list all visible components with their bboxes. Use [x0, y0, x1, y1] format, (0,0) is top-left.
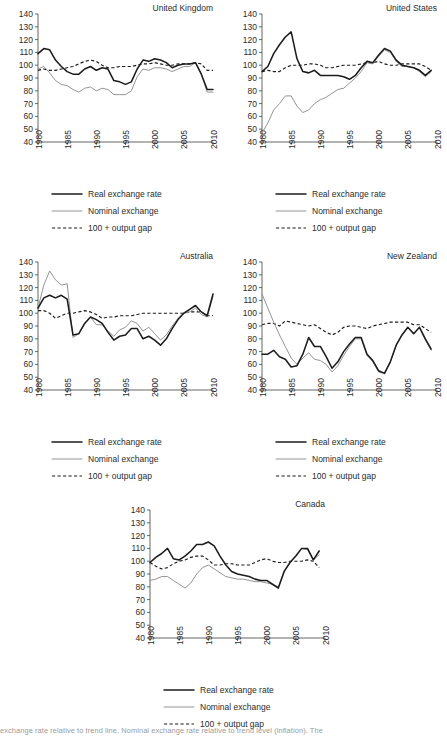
y-tick-label: 80 — [24, 334, 34, 344]
legend-label-3: 100 + output gap — [88, 223, 152, 233]
x-tick-label: 2005 — [179, 130, 189, 149]
y-tick-label: 90 — [136, 569, 146, 579]
legend-label-1: Real exchange rate — [200, 685, 274, 695]
y-tick-label: 140 — [19, 257, 33, 267]
y-tick-label: 90 — [248, 73, 258, 83]
x-tick-label: 1980 — [34, 130, 44, 149]
legend-label-1: Real exchange rate — [312, 189, 386, 199]
x-tick-label: 2010 — [209, 378, 219, 397]
y-tick-label: 40 — [24, 137, 34, 147]
x-tick-label: 2010 — [433, 130, 443, 149]
y-tick-label: 110 — [19, 47, 33, 57]
chart-svg: Australia4050607080901001101201301401980… — [0, 248, 223, 496]
x-tick-label: 1995 — [121, 130, 131, 149]
y-tick-label: 50 — [24, 124, 34, 134]
legend-label-1: Real exchange rate — [312, 437, 386, 447]
y-tick-label: 50 — [248, 124, 258, 134]
y-tick-label: 70 — [24, 347, 34, 357]
legend-label-2: Nominal exchange — [88, 206, 159, 216]
y-tick-label: 110 — [131, 543, 145, 553]
x-tick-label: 2005 — [403, 130, 413, 149]
x-tick-label: 2000 — [374, 378, 384, 397]
axis-lines — [262, 14, 437, 142]
y-tick-label: 110 — [19, 295, 33, 305]
y-tick-label: 40 — [248, 385, 258, 395]
y-tick-label: 40 — [24, 385, 34, 395]
y-tick-label: 100 — [131, 556, 145, 566]
y-tick-label: 100 — [243, 60, 257, 70]
x-tick-label: 2000 — [374, 130, 384, 149]
x-tick-label: 2005 — [179, 378, 189, 397]
y-tick-label: 140 — [243, 9, 257, 19]
x-tick-label: 2000 — [150, 378, 160, 397]
legend-label-3: 100 + output gap — [88, 471, 152, 481]
y-tick-label: 120 — [131, 531, 145, 541]
legend-label-2: Nominal exchange — [88, 454, 159, 464]
x-tick-label: 1985 — [175, 626, 185, 645]
axis-lines — [38, 262, 213, 390]
figure-caption-partial: exchange rate relative to trend line. No… — [0, 726, 447, 737]
y-tick-label: 80 — [136, 582, 146, 592]
y-tick-label: 110 — [243, 47, 257, 57]
legend-label-2: Nominal exchange — [312, 206, 383, 216]
series-real-exchange-rate — [38, 49, 213, 90]
y-tick-label: 140 — [243, 257, 257, 267]
y-tick-label: 60 — [248, 111, 258, 121]
y-tick-label: 110 — [243, 295, 257, 305]
y-tick-label: 130 — [131, 518, 145, 528]
y-tick-label: 60 — [248, 359, 258, 369]
y-tick-label: 120 — [19, 283, 33, 293]
y-tick-label: 100 — [243, 308, 257, 318]
x-tick-label: 1990 — [204, 626, 214, 645]
x-tick-label: 1985 — [287, 378, 297, 397]
x-tick-label: 2010 — [321, 626, 331, 645]
y-tick-label: 50 — [24, 372, 34, 382]
chart-svg: Canada4050607080901001101201301401980198… — [112, 496, 335, 737]
y-tick-label: 50 — [136, 620, 146, 630]
y-tick-label: 130 — [243, 22, 257, 32]
series-real-exchange-rate — [38, 294, 213, 345]
x-tick-label: 1980 — [146, 626, 156, 645]
y-tick-label: 70 — [24, 99, 34, 109]
x-tick-label: 2010 — [433, 378, 443, 397]
y-tick-label: 70 — [248, 347, 258, 357]
x-tick-label: 1985 — [63, 130, 73, 149]
y-tick-label: 140 — [131, 505, 145, 515]
legend-label-2: Nominal exchange — [312, 454, 383, 464]
chart-panel-canada: Canada4050607080901001101201301401980198… — [112, 496, 335, 737]
legend-label-1: Real exchange rate — [88, 189, 162, 199]
x-tick-label: 2010 — [209, 130, 219, 149]
chart-panel-new-zealand: New Zealand40506070809010011012013014019… — [224, 248, 447, 496]
x-tick-label: 2005 — [403, 378, 413, 397]
x-tick-label: 1995 — [345, 130, 355, 149]
y-tick-label: 130 — [19, 22, 33, 32]
series-nominal-exchange — [38, 271, 213, 340]
panel-title: New Zealand — [387, 251, 437, 261]
x-tick-label: 1990 — [316, 130, 326, 149]
x-tick-label: 2005 — [291, 626, 301, 645]
y-tick-label: 70 — [136, 595, 146, 605]
x-tick-label: 1995 — [121, 378, 131, 397]
panel-title: Australia — [180, 251, 213, 261]
y-tick-label: 90 — [248, 321, 258, 331]
y-tick-label: 80 — [24, 86, 34, 96]
series-real-exchange-rate — [262, 32, 431, 79]
x-tick-label: 1980 — [258, 378, 268, 397]
y-tick-label: 70 — [248, 99, 258, 109]
x-tick-label: 1990 — [316, 378, 326, 397]
y-tick-label: 140 — [19, 9, 33, 19]
x-tick-label: 2000 — [262, 626, 272, 645]
panel-title: United States — [386, 3, 437, 13]
y-tick-label: 100 — [19, 308, 33, 318]
y-tick-label: 80 — [248, 334, 258, 344]
y-tick-label: 90 — [24, 321, 34, 331]
legend-label-3: 100 + output gap — [312, 223, 376, 233]
x-tick-label: 1980 — [34, 378, 44, 397]
x-tick-label: 1990 — [92, 130, 102, 149]
chart-panel-australia: Australia4050607080901001101201301401980… — [0, 248, 223, 496]
y-tick-label: 60 — [24, 111, 34, 121]
x-tick-label: 1995 — [233, 626, 243, 645]
panel-title: United Kingdom — [153, 3, 213, 13]
axis-lines — [38, 14, 213, 142]
y-tick-label: 100 — [19, 60, 33, 70]
